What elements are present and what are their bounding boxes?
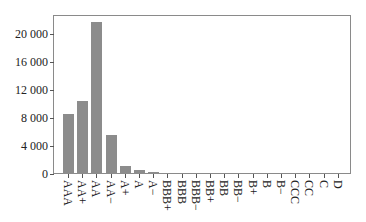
x-tick: [238, 174, 239, 178]
x-tick-label: C: [318, 180, 330, 188]
y-tick: [50, 34, 54, 35]
x-tick-label: B−: [275, 180, 287, 195]
y-tick: [50, 146, 54, 147]
x-tick-label: A+: [119, 180, 131, 195]
y-tick-label: 0: [42, 168, 48, 180]
x-tick-label: B+: [247, 180, 259, 195]
x-tick-label: B: [261, 180, 273, 188]
x-tick-label: BB−: [232, 180, 244, 203]
x-tick: [111, 174, 112, 178]
x-tick-label: A−: [147, 180, 159, 195]
bar-3: [106, 135, 117, 174]
y-tick: [50, 62, 54, 63]
y-tick: [50, 90, 54, 91]
y-tick-label: 4 000: [21, 140, 48, 152]
x-tick: [125, 174, 126, 178]
x-tick: [324, 174, 325, 178]
x-tick-label: AA−: [105, 180, 117, 204]
x-tick-label: BB+: [204, 180, 216, 203]
bar-0: [63, 114, 74, 174]
y-tick-label: 16 000: [15, 56, 48, 68]
x-tick: [338, 174, 339, 178]
y-tick-label: 12 000: [15, 84, 48, 96]
y-tick: [50, 174, 54, 175]
y-tick: [50, 118, 54, 119]
x-tick: [139, 174, 140, 178]
x-tick-label: BBB+: [161, 180, 173, 211]
x-tick: [281, 174, 282, 178]
x-tick: [182, 174, 183, 178]
x-tick: [96, 174, 97, 178]
x-tick: [224, 174, 225, 178]
x-tick: [167, 174, 168, 178]
x-tick: [309, 174, 310, 178]
x-tick: [196, 174, 197, 178]
x-tick: [68, 174, 69, 178]
x-tick-label: CCC: [289, 180, 301, 204]
x-tick: [82, 174, 83, 178]
y-tick-label: 8 000: [21, 112, 48, 124]
bar-4: [120, 166, 131, 174]
bar-2: [91, 22, 102, 174]
y-tick-label: 20 000: [15, 28, 48, 40]
x-tick: [267, 174, 268, 178]
x-tick-label: AA+: [76, 180, 88, 204]
x-tick-label: BB: [218, 180, 230, 196]
x-tick-label: CC: [303, 180, 315, 196]
x-tick: [253, 174, 254, 178]
x-tick-label: AAA: [62, 180, 74, 206]
x-tick: [295, 174, 296, 178]
x-tick-label: AA: [90, 180, 102, 197]
x-tick: [153, 174, 154, 178]
rating-distribution-bar-chart: 04 0008 00012 00016 00020 000 AAAAA+AAAA…: [0, 0, 366, 222]
x-tick: [210, 174, 211, 178]
bar-1: [77, 101, 88, 174]
x-tick-label: D: [332, 180, 344, 189]
x-tick-label: A: [133, 180, 145, 189]
x-tick-label: BBB−: [190, 180, 202, 211]
x-tick-label: BBB: [176, 180, 188, 204]
